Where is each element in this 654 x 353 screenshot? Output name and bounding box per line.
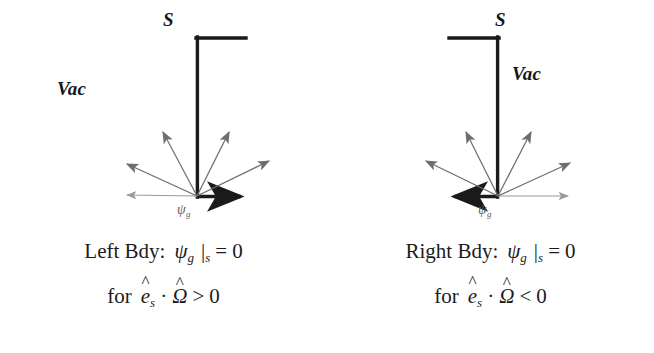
caption-right-direction-vector: ^Ω <box>499 281 514 311</box>
boundary-diagram-left: S Vac ψg Left Bdy:ψg|s=0 for^es·^Ω>0 <box>0 0 327 353</box>
caption-left-value: 0 <box>232 239 243 263</box>
right-diagram-graphic <box>327 0 654 230</box>
caption-right-value: 0 <box>565 239 576 263</box>
caption-right-psi: ψ <box>507 239 520 263</box>
caption-right-dot-operator: · <box>487 284 494 308</box>
direction-arrow-64 <box>197 132 229 196</box>
direction-arrow-118 <box>163 132 197 196</box>
caption-right-relation: = <box>548 239 560 263</box>
flux-subscript: g <box>487 209 492 219</box>
left-diagram-graphic <box>0 0 327 230</box>
flux-symbol: ψ <box>177 202 186 217</box>
caption-right-line1: Right Bdy:ψg|s=0 <box>327 236 654 273</box>
hat-accent-icon: ^ <box>468 273 476 290</box>
caption-right-lead: Right Bdy: <box>406 239 499 263</box>
caption-left-evalbar-sub: s <box>205 250 210 265</box>
surface-label-s: S <box>163 10 174 29</box>
caption-left-line1: Left Bdy:ψg|s=0 <box>0 236 327 273</box>
caption-right-line2: for^es·^Ω<0 <box>327 281 654 318</box>
caption-right-inequality: < <box>519 284 531 308</box>
caption-right-psi-sub: g <box>520 250 527 265</box>
caption-left-direction-vector: ^Ω <box>172 281 187 311</box>
hat-accent-icon: ^ <box>176 274 184 291</box>
caption-left-psi-sub: g <box>187 250 194 265</box>
caption-right-unit-vector: ^e <box>468 281 477 311</box>
vacuum-label: Vac <box>512 64 541 83</box>
flux-symbol: ψ <box>478 202 487 217</box>
direction-arrow-24 <box>498 163 570 196</box>
caption-left-line2: for^es·^Ω>0 <box>0 281 327 318</box>
boundary-diagram-right: S Vac ψg Right Bdy:ψg|s=0 for^es·^Ω<0 <box>327 0 654 353</box>
caption-left-dot-operator: · <box>160 284 167 308</box>
direction-arrow-154 <box>426 161 498 196</box>
flux-subscript: g <box>186 209 191 219</box>
caption-left-relation: = <box>215 239 227 263</box>
surface-label-s: S <box>495 10 506 29</box>
caption-right-for: for <box>434 284 459 308</box>
vacuum-label: Vac <box>57 79 86 98</box>
caption-right: Right Bdy:ψg|s=0 for^es·^Ω<0 <box>327 236 654 318</box>
caption-left: Left Bdy:ψg|s=0 for^es·^Ω>0 <box>0 236 327 318</box>
flux-label-psi-g: ψg <box>478 203 491 219</box>
caption-right-e-sub: s <box>477 295 482 310</box>
caption-left-lead: Left Bdy: <box>84 239 165 263</box>
caption-left-e-sub: s <box>150 295 155 310</box>
direction-arrow-116 <box>466 132 498 196</box>
caption-left-unit-vector: ^e <box>141 281 150 311</box>
direction-arrow-26 <box>197 161 269 196</box>
caption-left-line2-value: 0 <box>209 284 220 308</box>
caption-right-line2-value: 0 <box>536 284 547 308</box>
direction-arrow-62 <box>498 132 531 196</box>
caption-left-inequality: > <box>192 284 204 308</box>
direction-arrow-180 <box>127 195 197 196</box>
hat-accent-icon: ^ <box>141 273 149 290</box>
caption-left-psi: ψ <box>174 239 187 263</box>
caption-left-for: for <box>107 284 132 308</box>
hat-accent-icon: ^ <box>503 274 511 291</box>
figure-root: S Vac ψg Left Bdy:ψg|s=0 for^es·^Ω>0 <box>0 0 654 353</box>
caption-right-evalbar-sub: s <box>538 250 543 265</box>
flux-label-psi-g: ψg <box>177 203 190 219</box>
direction-arrow-156 <box>127 164 197 196</box>
